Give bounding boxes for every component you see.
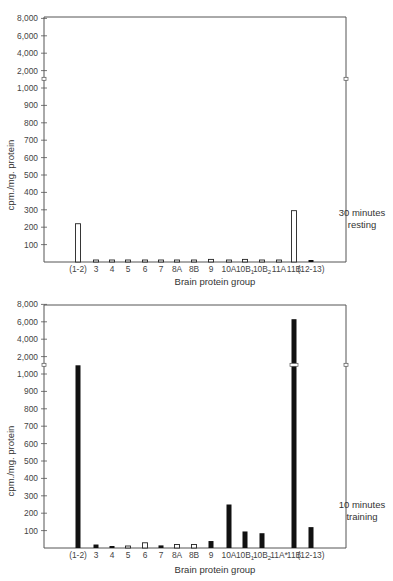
x-tick-label: 8A [172, 264, 183, 274]
y-tick-label: 800 [24, 118, 38, 128]
x-axis-title: Brain protein group [175, 564, 256, 575]
x-tick-label: 10B2 [253, 264, 272, 275]
x-tick-label: 8B [189, 550, 200, 560]
y-tick-label: 700 [24, 135, 38, 145]
bar-10B1 [243, 259, 248, 262]
chart-annotation: training [346, 511, 377, 522]
bar-3 [94, 260, 99, 262]
chart-annotation: 30 minutes [339, 207, 386, 218]
y-tick-label: 4,000 [17, 334, 38, 344]
y-tick-label: 200 [24, 222, 38, 232]
y-tick-label: 200 [24, 508, 38, 518]
y-tick-label: 100 [24, 526, 38, 536]
bar-10B2 [260, 533, 265, 548]
bar-11B [292, 319, 297, 548]
chart-annotation: 10 minutes [339, 499, 386, 510]
y-tick-label: 2,000 [17, 66, 38, 76]
x-tick-label: 5 [126, 264, 131, 274]
y-tick-label: 100 [24, 240, 38, 250]
y-axis-title: cpm./mg. protein [5, 426, 16, 497]
x-tick-label: 8B [189, 264, 200, 274]
x-tick-label: 4 [110, 550, 115, 560]
x-tick-label: 3 [94, 550, 99, 560]
x-tick-label: 8A [172, 550, 183, 560]
axis-break-right-icon [344, 363, 348, 366]
chart-annotation: resting [348, 219, 377, 230]
bar-4 [110, 260, 115, 262]
bar-10B1 [243, 531, 248, 548]
x-tick-label: 10B2 [253, 550, 272, 561]
bar-(1-2) [76, 224, 81, 262]
bar-4 [110, 546, 115, 548]
x-tick-label: 10A [222, 550, 237, 560]
bar-8A [175, 260, 180, 262]
chart-training-svg: 1002003004005006007008009001,0002,0004,0… [0, 288, 393, 581]
y-tick-label: 900 [24, 386, 38, 396]
bar-8B [192, 545, 197, 548]
bar-11A [277, 260, 282, 262]
y-tick-label: 8,000 [17, 13, 38, 23]
chart-training: 1002003004005006007008009001,0002,0004,0… [0, 288, 393, 581]
y-tick-label: 500 [24, 456, 38, 466]
chart-resting: 1002003004005006007008009001,0002,0004,0… [0, 0, 393, 290]
y-axis-title: cpm./mg. protein [5, 140, 16, 211]
x-tick-label: (12-13) [298, 264, 325, 274]
y-tick-label: 300 [24, 491, 38, 501]
x-tick-label: 11A [272, 264, 287, 274]
x-tick-label: (1-2) [69, 264, 87, 274]
y-tick-label: 800 [24, 404, 38, 414]
bar-6 [143, 260, 148, 262]
y-tick-label: 400 [24, 187, 38, 197]
chart-resting-svg: 1002003004005006007008009001,0002,0004,0… [0, 0, 393, 290]
x-axis-title: Brain protein group [175, 276, 256, 287]
y-tick-label: 600 [24, 153, 38, 163]
bar-9 [209, 259, 214, 262]
x-tick-label: (12-13) [298, 550, 325, 560]
bar-10A [227, 260, 232, 262]
x-tick-label: 5 [126, 550, 131, 560]
y-tick-label: 6,000 [17, 317, 38, 327]
y-tick-label: 400 [24, 473, 38, 483]
y-tick-label: 4,000 [17, 48, 38, 58]
bar-5 [126, 260, 131, 262]
bar-6 [143, 543, 148, 548]
y-tick-label: 1,000 [17, 369, 38, 379]
x-tick-label: (1-2) [69, 550, 87, 560]
y-tick-label: 6,000 [17, 31, 38, 41]
bar-10B2 [260, 260, 265, 262]
x-tick-label: 6 [143, 550, 148, 560]
y-tick-label: 300 [24, 205, 38, 215]
bar-7 [159, 545, 164, 548]
axis-break-left-icon [42, 77, 46, 80]
y-tick-label: 600 [24, 439, 38, 449]
bar-(1-2) [76, 365, 81, 548]
axis-break-right-icon [344, 77, 348, 80]
x-tick-label: 10A [222, 264, 237, 274]
x-tick-label: 9 [209, 550, 214, 560]
x-tick-label: 4 [110, 264, 115, 274]
x-tick-label: 9 [209, 264, 214, 274]
bar-8B [192, 260, 197, 262]
y-tick-label: 900 [24, 100, 38, 110]
bar-10A [227, 505, 232, 549]
bar-9 [209, 541, 214, 548]
x-tick-label: 7 [159, 264, 164, 274]
bar-11B [292, 211, 297, 262]
bar-7 [159, 260, 164, 262]
y-tick-label: 2,000 [17, 352, 38, 362]
bar-5 [126, 546, 131, 548]
y-tick-label: 1,000 [17, 83, 38, 93]
bar-8A [175, 545, 180, 548]
bar-(12-13) [309, 527, 314, 548]
axis-break-left-icon [42, 363, 46, 366]
x-tick-label: 6 [143, 264, 148, 274]
y-tick-label: 8,000 [17, 299, 38, 309]
bar-3 [94, 545, 99, 548]
x-tick-label: 7 [159, 550, 164, 560]
x-tick-label: 11A* [270, 550, 288, 560]
y-tick-label: 700 [24, 421, 38, 431]
bar-(12-13) [309, 260, 314, 262]
x-tick-label: 3 [94, 264, 99, 274]
y-tick-label: 500 [24, 170, 38, 180]
bar-break-icon [290, 363, 298, 366]
